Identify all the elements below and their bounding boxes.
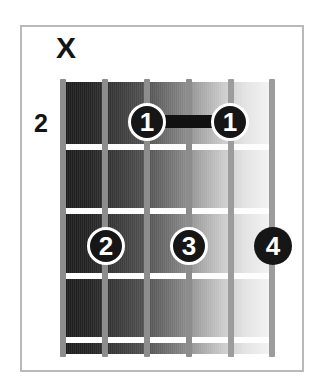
- finger-marker-3-string-4[interactable]: 3: [170, 227, 208, 265]
- fret-line-3: [62, 273, 274, 279]
- fretboard: 1 1 2 3 4: [62, 82, 274, 354]
- chord-diagram-card: X 2 1 1 2 3 4: [20, 25, 304, 372]
- starting-fret-label: 2: [28, 109, 54, 137]
- finger-marker-1-string-5[interactable]: 1: [211, 103, 249, 141]
- string-2-a: [102, 79, 108, 357]
- string-6-high-e: [269, 79, 275, 357]
- finger-marker-4-string-6[interactable]: 4: [254, 227, 292, 265]
- fret-line-2: [62, 208, 274, 214]
- finger-marker-1-string-3[interactable]: 1: [128, 103, 166, 141]
- finger-marker-2-string-2[interactable]: 2: [87, 227, 125, 265]
- string-1-low-e: [60, 79, 66, 357]
- muted-string-x-marker: X: [49, 31, 83, 65]
- fret-line-4: [62, 337, 274, 343]
- fret-line-1: [62, 144, 274, 150]
